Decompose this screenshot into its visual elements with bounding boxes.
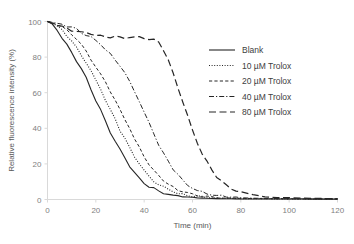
series-line <box>48 22 338 200</box>
legend-item-label: 20 µM Trolox <box>242 76 292 86</box>
x-axis-ticks: 020406080100120 <box>45 200 344 215</box>
y-axis-title: Relative fluorescence intensity (%) <box>7 49 16 172</box>
x-tick-label: 80 <box>236 206 245 215</box>
x-tick-label: 0 <box>45 206 50 215</box>
y-tick-label: 40 <box>33 124 42 133</box>
series-line <box>48 22 338 199</box>
x-tick-label: 20 <box>91 206 100 215</box>
chart-legend: Blank10 µM Trolox20 µM Trolox40 µM Trolo… <box>209 45 292 117</box>
legend-item-label: 40 µM Trolox <box>242 92 292 102</box>
x-axis-title: Time (min) <box>174 221 212 230</box>
data-series-group <box>48 22 338 200</box>
y-tick-label: 0 <box>37 196 42 205</box>
y-tick-label: 60 <box>33 89 42 98</box>
legend-item-label: Blank <box>242 45 264 55</box>
series-line <box>48 22 338 200</box>
line-chart: 020406080100 020406080100120 Time (min) … <box>0 0 354 244</box>
y-axis-ticks: 020406080100 <box>28 18 47 205</box>
chart-container: 020406080100 020406080100120 Time (min) … <box>0 0 354 244</box>
y-tick-label: 20 <box>33 160 42 169</box>
legend-item-label: 10 µM Trolox <box>242 61 292 71</box>
series-line <box>48 22 338 199</box>
legend-item-label: 80 µM Trolox <box>242 107 292 117</box>
y-tick-label: 80 <box>33 53 42 62</box>
x-tick-label: 100 <box>282 206 296 215</box>
x-tick-label: 120 <box>331 206 345 215</box>
series-line <box>48 22 338 200</box>
x-tick-label: 60 <box>188 206 197 215</box>
x-tick-label: 40 <box>140 206 149 215</box>
y-tick-label: 100 <box>28 18 42 27</box>
